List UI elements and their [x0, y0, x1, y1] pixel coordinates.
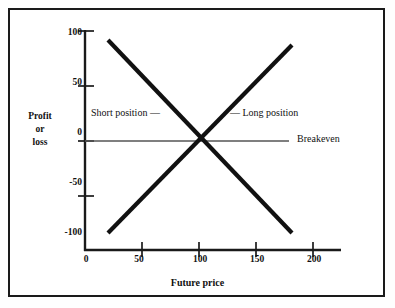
- x-tick-label-200: 200: [303, 254, 325, 264]
- x-tick-label-0: 0: [79, 254, 93, 264]
- x-tick-label-150: 150: [246, 254, 268, 264]
- y-axis-title-line-3: loss: [18, 136, 62, 149]
- y-axis-title-line-2: or: [18, 123, 62, 136]
- y-tick-label-50: 50: [58, 77, 82, 87]
- x-tick-label-100: 100: [189, 254, 211, 264]
- x-tick-label-50: 50: [131, 254, 147, 264]
- y-axis-title: Profit or loss: [18, 110, 62, 149]
- long-position-label: — Long position: [230, 107, 298, 118]
- short-position-label: Short position —: [91, 107, 160, 118]
- y-axis-title-line-1: Profit: [18, 110, 62, 123]
- y-tick-label-neg50: -50: [56, 177, 82, 187]
- y-tick-label-100: 100: [58, 27, 82, 37]
- x-axis-title: Future price: [0, 277, 395, 288]
- chart-figure: 100 50 0 -50 -100 0 50 100 150 200 Profi…: [0, 0, 395, 308]
- breakeven-label: Breakeven: [297, 133, 340, 144]
- y-tick-label-neg100: -100: [52, 227, 82, 237]
